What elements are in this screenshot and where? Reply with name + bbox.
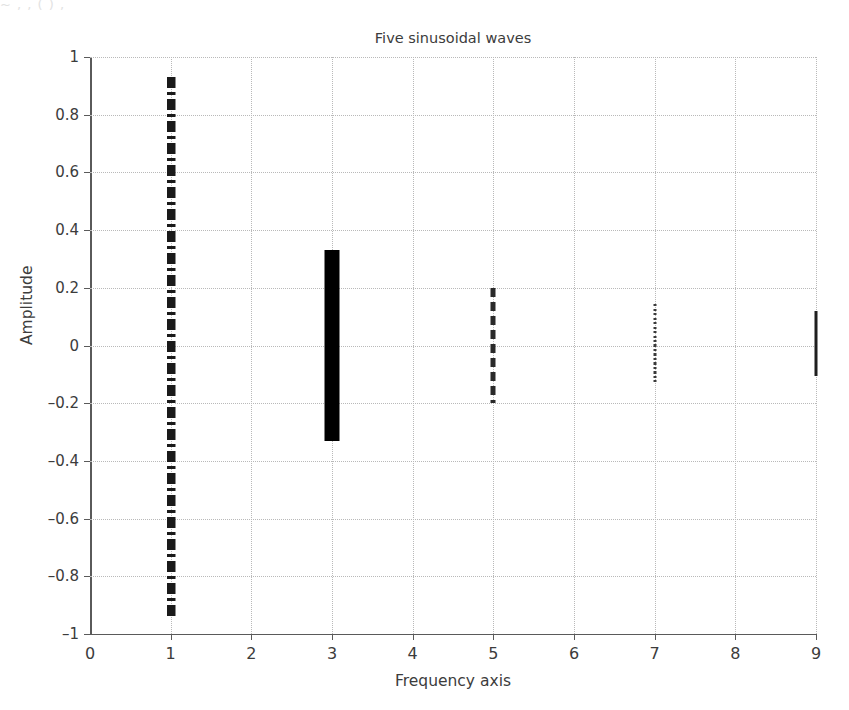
data-stem-wave-9 bbox=[815, 311, 818, 376]
y-tick-label: –1 bbox=[62, 625, 79, 643]
data-stem-wave-3 bbox=[325, 250, 340, 440]
y-tick-mark bbox=[84, 634, 90, 635]
gridline-horizontal bbox=[90, 288, 816, 289]
y-tick-label: 0 bbox=[69, 337, 79, 355]
y-tick-label: –0.6 bbox=[48, 510, 79, 528]
x-tick-label: 2 bbox=[246, 644, 256, 663]
x-tick-label: 7 bbox=[650, 644, 660, 663]
y-tick-mark bbox=[84, 576, 90, 577]
x-axis-title: Frequency axis bbox=[90, 672, 816, 690]
y-tick-mark bbox=[84, 346, 90, 347]
x-tick-label: 1 bbox=[166, 644, 176, 663]
x-tick-label: 6 bbox=[569, 644, 579, 663]
x-tick-mark bbox=[413, 634, 414, 640]
x-tick-mark bbox=[816, 634, 817, 640]
gridline-horizontal bbox=[90, 346, 816, 347]
y-tick-mark bbox=[84, 519, 90, 520]
y-axis-title: Amplitude bbox=[18, 266, 36, 345]
x-tick-mark bbox=[251, 634, 252, 640]
y-tick-mark bbox=[84, 115, 90, 116]
y-tick-label: 0.8 bbox=[55, 106, 79, 124]
x-tick-label: 4 bbox=[408, 644, 418, 663]
gridline-horizontal bbox=[90, 519, 816, 520]
gridline-horizontal bbox=[90, 172, 816, 173]
x-tick-mark bbox=[493, 634, 494, 640]
x-tick-mark bbox=[332, 634, 333, 640]
y-tick-label: –0.4 bbox=[48, 452, 79, 470]
x-tick-mark bbox=[735, 634, 736, 640]
y-tick-mark bbox=[84, 288, 90, 289]
data-stem-wave-1 bbox=[166, 77, 175, 619]
y-tick-label: 0.4 bbox=[55, 221, 79, 239]
gridline-horizontal bbox=[90, 115, 816, 116]
y-tick-label: –0.2 bbox=[48, 394, 79, 412]
data-stem-wave-5 bbox=[491, 288, 496, 403]
gridline-horizontal bbox=[90, 576, 816, 577]
gridline-horizontal bbox=[90, 461, 816, 462]
x-tick-label: 3 bbox=[327, 644, 337, 663]
x-tick-mark bbox=[655, 634, 656, 640]
x-tick-label: 0 bbox=[85, 644, 95, 663]
x-tick-label: 8 bbox=[730, 644, 740, 663]
data-stem-wave-7 bbox=[653, 304, 656, 385]
y-tick-mark bbox=[84, 403, 90, 404]
x-tick-mark bbox=[574, 634, 575, 640]
gridline-horizontal bbox=[90, 57, 816, 58]
x-tick-label: 5 bbox=[488, 644, 498, 663]
x-tick-label: 9 bbox=[811, 644, 821, 663]
y-tick-mark bbox=[84, 57, 90, 58]
y-tick-label: 1 bbox=[69, 48, 79, 66]
x-tick-mark bbox=[171, 634, 172, 640]
figure-canvas: Five sinusoidal waves Amplitude Frequenc… bbox=[0, 0, 849, 710]
gridline-horizontal bbox=[90, 230, 816, 231]
y-tick-mark bbox=[84, 461, 90, 462]
y-tick-mark bbox=[84, 172, 90, 173]
plot-area: 10.80.60.40.20–0.2–0.4–0.6–0.8–1 0123456… bbox=[90, 57, 816, 634]
gridline-horizontal bbox=[90, 403, 816, 404]
chart-title: Five sinusoidal waves bbox=[90, 30, 816, 46]
y-tick-mark bbox=[84, 230, 90, 231]
y-tick-label: 0.2 bbox=[55, 279, 79, 297]
y-tick-label: 0.6 bbox=[55, 163, 79, 181]
y-tick-label: –0.8 bbox=[48, 567, 79, 585]
